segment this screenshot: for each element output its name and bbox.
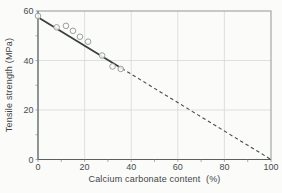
y-axis-title: Tensile strength (MPa) [4,38,14,132]
x-tick-label: 40 [126,162,136,172]
data-point [70,28,76,34]
x-tick-label: 20 [80,162,90,172]
x-tick-label: 80 [219,162,229,172]
y-tick-label: 40 [23,56,33,66]
data-point [77,34,83,40]
data-point [35,13,41,19]
tensile-strength-vs-calcium-carbonate-chart: 0204060801000204060 Calcium carbonate co… [0,0,282,193]
y-tick-label: 20 [23,105,33,115]
data-point [99,53,105,59]
x-axis-title: Calcium carbonate content (%) [38,174,271,184]
data-point [110,64,116,70]
y-tick-label: 0 [28,155,33,165]
fit-line-dashed [122,68,271,159]
plot-area: 0204060801000204060 [0,0,282,193]
data-point [54,25,60,31]
data-point [63,23,69,29]
x-tick-label: 60 [173,162,183,172]
x-tick-label: 0 [35,162,40,172]
data-point [85,39,91,45]
x-tick-label: 100 [263,162,278,172]
data-point [118,66,124,72]
y-tick-label: 60 [23,6,33,16]
